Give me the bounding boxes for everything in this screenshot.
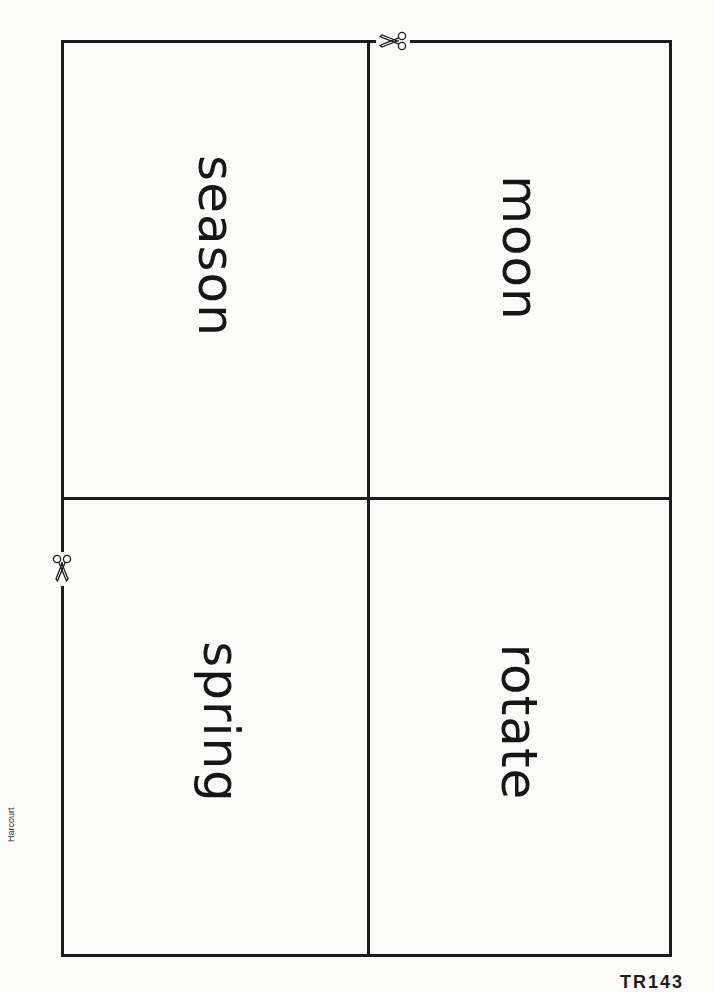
- publisher-credit: Harcourt: [6, 807, 16, 842]
- word-card-top-right: moon: [370, 43, 669, 497]
- page-code: TR143: [620, 972, 684, 992]
- scissors-icon: [49, 552, 75, 586]
- word-card-bottom-right: rotate: [370, 500, 669, 954]
- card-word: season: [187, 155, 245, 337]
- card-word: rotate: [490, 644, 548, 801]
- card-word: moon: [490, 175, 548, 321]
- word-card-bottom-left: spring: [64, 500, 367, 954]
- word-card-top-left: season: [64, 43, 367, 497]
- scissors-icon: [376, 28, 410, 54]
- card-word: spring: [191, 641, 249, 803]
